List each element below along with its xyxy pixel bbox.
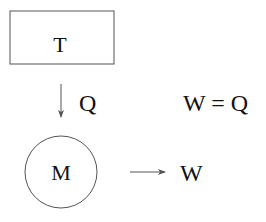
equation-label: W = Q <box>183 90 248 116</box>
heat-flow-label: Q <box>79 90 96 116</box>
reservoir-box: T <box>10 11 114 64</box>
heat-engine-diagram: T Q W = Q M W <box>0 0 266 222</box>
heat-flow-arrow: Q <box>61 84 96 117</box>
machine-circle: M <box>25 136 97 208</box>
reservoir-label: T <box>53 32 67 57</box>
work-output-label: W <box>180 160 203 186</box>
machine-label: M <box>51 160 71 185</box>
work-output-arrow: W <box>130 160 203 186</box>
